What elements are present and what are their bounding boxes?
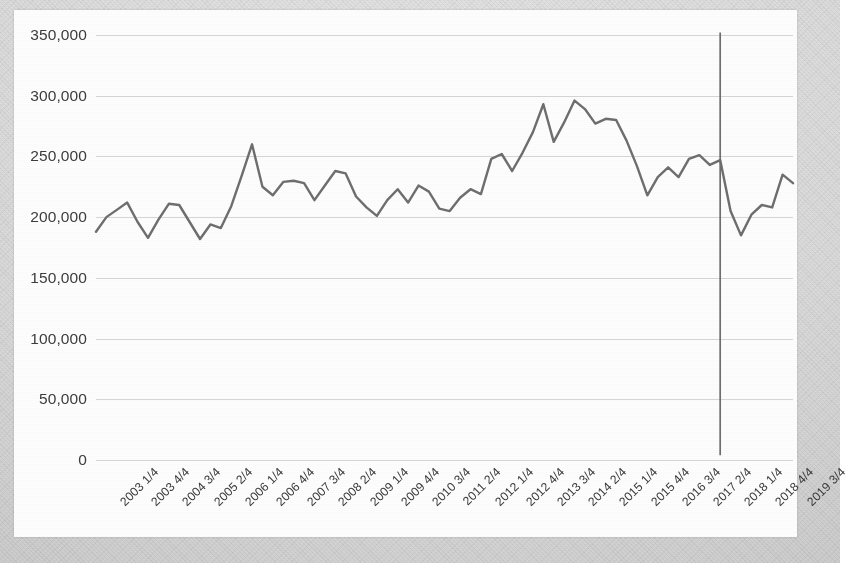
- y-axis-tick-label: 50,000: [39, 390, 87, 408]
- x-axis-tick-labels: 2003 1/42003 4/42004 3/42005 2/42006 1/4…: [96, 462, 793, 542]
- gridline: [96, 460, 793, 461]
- plot-area: 350,000300,000250,000200,000150,000100,0…: [96, 35, 793, 460]
- series-line-quarterly-value: [96, 101, 793, 239]
- series-line-chart: [96, 35, 793, 460]
- chart-card: 350,000300,000250,000200,000150,000100,0…: [14, 10, 797, 537]
- y-axis-tick-label: 300,000: [30, 87, 87, 105]
- y-axis-tick-label: 100,000: [30, 330, 87, 348]
- y-axis-tick-label: 350,000: [30, 26, 87, 44]
- y-axis-tick-label: 200,000: [30, 208, 87, 226]
- y-axis-tick-label: 250,000: [30, 147, 87, 165]
- y-axis-tick-label: 150,000: [30, 269, 87, 287]
- y-axis-tick-label: 0: [78, 451, 87, 469]
